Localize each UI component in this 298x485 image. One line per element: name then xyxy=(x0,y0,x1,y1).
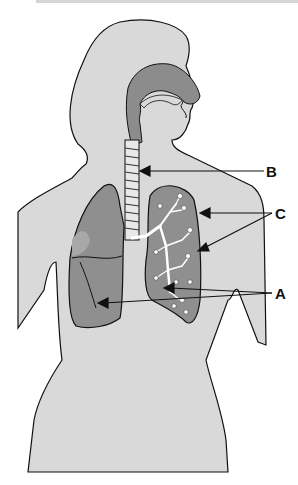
trachea xyxy=(125,140,139,240)
label-c: C xyxy=(275,206,286,221)
label-a: A xyxy=(275,286,286,301)
respiratory-diagram xyxy=(0,0,298,485)
label-b: B xyxy=(266,164,277,179)
